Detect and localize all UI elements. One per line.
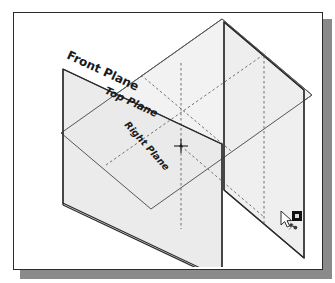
viewport-canvas-area[interactable]: Front Plane Top Plane Right Plane [16,15,320,267]
window-frame: Front Plane Top Plane Right Plane [13,12,323,270]
plane-select-badge-icon [292,211,302,221]
cad-viewport-window: Front Plane Top Plane Right Plane [0,0,335,283]
planes-drawing: Front Plane Top Plane Right Plane [16,15,320,267]
